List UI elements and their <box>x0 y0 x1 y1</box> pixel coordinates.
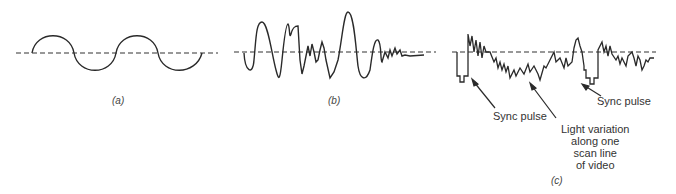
caption-c: (c) <box>551 175 563 186</box>
arrow-head <box>530 83 536 90</box>
label-line: of video <box>561 159 630 171</box>
label-light-variation: Light variation along one scan line of v… <box>561 123 630 171</box>
caption-b: (b) <box>328 95 340 106</box>
caption-a: (a) <box>112 95 124 106</box>
label-sync-pulse-left: Sync pulse <box>493 110 547 122</box>
label-line: scan line <box>561 147 630 159</box>
video-signal <box>457 34 654 84</box>
label-line: Light variation <box>561 123 630 135</box>
arrow-head <box>472 79 478 86</box>
label-line: along one <box>561 135 630 147</box>
arrow-head <box>582 84 589 90</box>
audio-wave <box>244 12 424 78</box>
arrow-sync-left <box>474 82 495 108</box>
label-sync-pulse-right: Sync pulse <box>597 95 651 107</box>
